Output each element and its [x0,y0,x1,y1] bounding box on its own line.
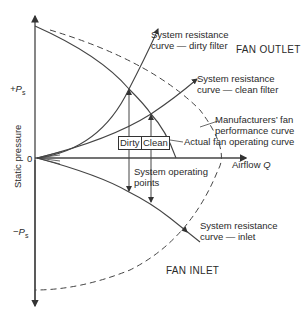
manufacturers-curve-label: Manufacturers’ fan performance curve [215,114,294,136]
y-pos-tick: +Ps [10,83,25,98]
dirty-box: Dirty [118,136,142,150]
y-axis-label: Static pressure [12,125,23,188]
clean-filter-label: System resistance curve — clean filter [197,73,278,95]
clean-box: Clean [141,136,170,150]
fan-outlet-label: FAN OUTLET [236,44,301,55]
inlet-curve-label: System resistance curve — inlet [200,220,278,242]
fan-inlet-label: FAN INLET [166,265,219,276]
y-zero-tick: 0 [27,153,32,164]
y-neg-tick: −Ps [13,226,28,241]
dirty-filter-label: System resistance curve — dirty filter [151,29,229,51]
operating-points-label: System operating points [134,166,208,188]
actual-curve-label: Actual fan operating curve [184,136,294,147]
manufacturers-performance-curve [35,30,221,290]
x-axis-label: Airflow Q [232,159,271,170]
clean-filter-curve [37,80,196,158]
